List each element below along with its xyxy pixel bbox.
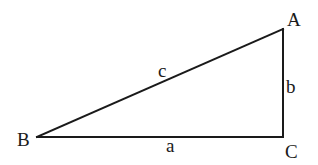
vertex-label-b: B	[17, 129, 30, 150]
side-label-a: a	[166, 135, 175, 156]
vertex-label-c: C	[285, 141, 298, 162]
side-label-b: b	[286, 76, 296, 97]
right-triangle-diagram: A B C c a b	[0, 0, 318, 165]
side-label-c: c	[158, 60, 166, 81]
side-c-hypotenuse	[37, 29, 283, 137]
vertex-label-a: A	[287, 9, 301, 30]
